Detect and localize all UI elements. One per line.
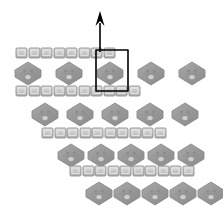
lattice-square: [120, 166, 131, 176]
lattice-square: [130, 128, 141, 138]
hexagon-atom-left: [110, 111, 113, 114]
hexagon-atom-right: [153, 70, 156, 73]
hexagon-atom-center: [66, 75, 72, 80]
hexagon-atom-left: [122, 190, 125, 193]
hexagon-atom-center: [68, 157, 74, 162]
lattice-square: [83, 166, 94, 176]
hexagon-atom-left: [96, 152, 99, 155]
hexagon-atom-right: [193, 152, 196, 155]
hexagon-atom-center: [148, 75, 154, 80]
lattice-square: [142, 128, 153, 138]
hexagon-atom-center: [182, 116, 188, 121]
lattice-square: [155, 128, 166, 138]
hexagon-atom-center: [98, 157, 104, 162]
hexagon-atom-center: [77, 116, 83, 121]
lattice-square: [117, 128, 128, 138]
hexagon-atom-right: [101, 190, 104, 193]
lattice-square: [55, 128, 66, 138]
lattice-square: [92, 128, 103, 138]
hexagon-atom-right: [157, 190, 160, 193]
hexagon-atom-right: [73, 152, 76, 155]
lattice-square: [79, 48, 90, 58]
hexagon-atom-right: [185, 190, 188, 193]
hexagon-atom-right: [152, 111, 155, 114]
lattice-square: [145, 166, 156, 176]
hexagon-atom-center: [42, 116, 48, 121]
hexagon-atom-right: [133, 152, 136, 155]
hexagon-atom-center: [96, 195, 102, 200]
lattice-square: [108, 166, 119, 176]
lattice-square: [67, 128, 78, 138]
lattice-square: [80, 128, 91, 138]
hexagon-atom-left: [126, 152, 129, 155]
hexagon-atom-center: [158, 157, 164, 162]
hexagon-atom-center: [188, 157, 194, 162]
hexagon-atom-center: [147, 116, 153, 121]
lattice-square: [170, 166, 181, 176]
lattice-square: [158, 166, 169, 176]
hexagon-atom-left: [180, 111, 183, 114]
lattice-square: [79, 86, 90, 96]
lattice-square: [16, 48, 27, 58]
lattice-square: [54, 48, 65, 58]
hexagon-atom-right: [30, 70, 33, 73]
hexagon-atom-right: [71, 70, 74, 73]
hexagon-atom-left: [186, 152, 189, 155]
hexagon-atom-right: [47, 111, 50, 114]
lattice-square: [66, 86, 77, 96]
hexagon-atom-left: [94, 190, 97, 193]
hexagon-atom-left: [187, 70, 190, 73]
lattice-square: [129, 86, 140, 96]
hexagon-atom-center: [124, 195, 130, 200]
hexagon-atom-center: [152, 195, 158, 200]
hexagon-atom-left: [206, 190, 209, 193]
hexagon-atom-left: [75, 111, 78, 114]
lattice-square: [29, 48, 40, 58]
hexagon-atom-center: [128, 157, 134, 162]
lattice-square: [183, 166, 194, 176]
lattice-square: [41, 86, 52, 96]
hexagon-atom-right: [129, 190, 132, 193]
lattice-square: [29, 86, 40, 96]
hexagon-atom-right: [103, 152, 106, 155]
hexagon-atom-left: [105, 70, 108, 73]
hexagon-atom-left: [156, 152, 159, 155]
hexagon-atom-center: [189, 75, 195, 80]
hexagon-atom-left: [178, 190, 181, 193]
lattice-square: [54, 86, 65, 96]
hexagon-atom-left: [66, 152, 69, 155]
hexagon-atom-right: [187, 111, 190, 114]
hexagon-atom-left: [150, 190, 153, 193]
hexagon-atom-center: [112, 116, 118, 121]
hexagon-atom-left: [145, 111, 148, 114]
hexagon-atom-right: [112, 70, 115, 73]
lattice-square: [66, 48, 77, 58]
hexagon-atom-left: [146, 70, 149, 73]
hexagon-atom-center: [107, 75, 113, 80]
lattice-square: [105, 128, 116, 138]
lattice-square: [16, 86, 27, 96]
hexagon-atom-right: [194, 70, 197, 73]
hexagon-atom-left: [64, 70, 67, 73]
hexagon-atom-center: [180, 195, 186, 200]
hexagon-atom-right: [82, 111, 85, 114]
hexagon-atom-right: [213, 190, 216, 193]
hexagon-atom-left: [40, 111, 43, 114]
lattice-square: [41, 48, 52, 58]
hexagon-atom-left: [23, 70, 26, 73]
hexagon-atom-center: [25, 75, 31, 80]
hexagon-atom-right: [163, 152, 166, 155]
lattice-square: [70, 166, 81, 176]
lattice-diagram: [0, 0, 223, 212]
hexagon-atom-center: [208, 195, 214, 200]
lattice-square: [42, 128, 53, 138]
hexagon-atom-right: [117, 111, 120, 114]
lattice-canvas: [0, 0, 223, 212]
lattice-square: [95, 166, 106, 176]
lattice-square: [133, 166, 144, 176]
